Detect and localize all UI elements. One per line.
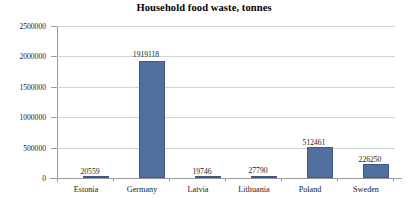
bar-value-latvia: 19746: [171, 168, 233, 176]
y-axis-label-2500000: 2500000: [19, 23, 46, 31]
x-axis-tick-1: [113, 178, 114, 182]
x-axis-tick-6: [393, 178, 394, 182]
gridline-2000000: [57, 56, 395, 57]
y-axis-label-2000000: 2000000: [19, 53, 46, 61]
x-axis-tick-3: [225, 178, 226, 182]
x-axis-label-lithuania: Lithuania: [227, 186, 281, 194]
x-axis-tick-2: [169, 178, 170, 182]
x-axis-line: [50, 178, 402, 179]
bar-lithuania: [251, 176, 277, 178]
bar-chart: Household food waste, tonnes 2500000 200…: [0, 0, 408, 209]
x-axis-label-sweden: Sweden: [339, 186, 393, 194]
bar-sweden: [363, 164, 389, 178]
gridline-500000: [57, 148, 395, 149]
chart-title: Household food waste, tonnes: [0, 2, 408, 13]
x-axis-tick-4: [281, 178, 282, 182]
x-axis-label-poland: Poland: [283, 186, 337, 194]
x-axis-tick-5: [337, 178, 338, 182]
bar-value-poland: 512461: [283, 139, 345, 147]
y-axis-label-0: 0: [42, 175, 46, 183]
bar-estonia: [83, 176, 109, 178]
y-axis-label-1000000: 1000000: [19, 114, 46, 122]
bar-value-estonia: 20559: [59, 168, 121, 176]
x-axis-tick-0: [57, 178, 58, 182]
gridline-1500000: [57, 87, 395, 88]
gridline-2500000: [57, 26, 395, 27]
x-axis-label-estonia: Estonia: [59, 186, 113, 194]
bar-value-sweden: 226250: [339, 156, 401, 164]
bar-value-lithuania: 27790: [227, 167, 289, 175]
bar-poland: [307, 147, 333, 178]
bar-germany: [139, 61, 165, 178]
x-axis-label-latvia: Latvia: [171, 186, 225, 194]
gridline-1000000: [57, 117, 395, 118]
y-axis-label-1500000: 1500000: [19, 84, 46, 92]
x-axis-label-germany: Germany: [115, 186, 169, 194]
bar-latvia: [195, 176, 221, 178]
y-axis-label-500000: 500000: [23, 145, 46, 153]
bar-value-germany: 1919118: [115, 51, 177, 59]
